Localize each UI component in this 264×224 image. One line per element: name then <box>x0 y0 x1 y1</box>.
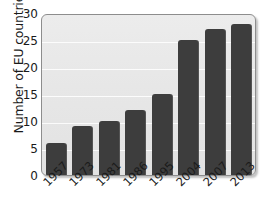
bar-chart-figure: Number of EU countries 051015202530 1957… <box>0 0 264 224</box>
x-axis-tick-labels: 19571973198119861995200420072013 <box>41 176 256 222</box>
y-tick-label: 0 <box>10 170 38 182</box>
y-tick-label: 15 <box>10 89 38 101</box>
bar <box>231 24 252 175</box>
bar <box>178 40 199 175</box>
y-tick-label: 25 <box>10 35 38 47</box>
plot-panel <box>41 14 256 176</box>
bar <box>205 29 226 175</box>
y-tick-label: 30 <box>10 8 38 20</box>
y-tick-label: 5 <box>10 143 38 155</box>
y-tick-label: 20 <box>10 62 38 74</box>
y-tick-label: 10 <box>10 116 38 128</box>
bars-group <box>42 15 255 175</box>
y-axis-tick-labels: 051015202530 <box>10 14 38 176</box>
